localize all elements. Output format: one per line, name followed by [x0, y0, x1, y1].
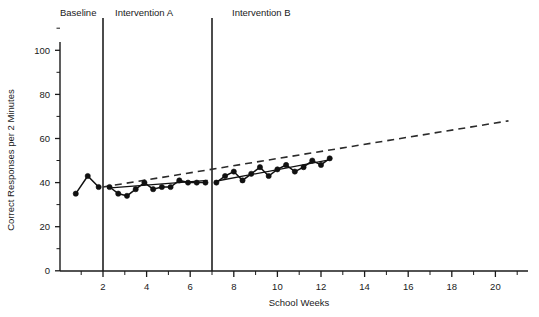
data-point: [310, 158, 315, 163]
y-axis: 100 80 60 40 20 0: [34, 28, 60, 276]
phase-label-baseline: Baseline: [60, 7, 96, 18]
aim-line-goal-aim-line: [103, 121, 508, 187]
data-point: [275, 167, 280, 172]
x-tick-label-20: 20: [490, 281, 501, 292]
data-point: [301, 165, 306, 170]
data-point: [151, 187, 156, 192]
x-tick-label-6: 6: [188, 281, 193, 292]
phase-lines-group: [103, 18, 212, 271]
x-tick-label-8: 8: [231, 281, 236, 292]
data-point: [116, 191, 121, 196]
x-tick-label-14: 14: [359, 281, 370, 292]
data-point: [124, 193, 129, 198]
data-point: [222, 173, 227, 178]
x-axis: 2 4 6 8 10 12 14 16 18 20: [60, 271, 528, 292]
chart-container: Baseline Intervention A Intervention B 1…: [0, 0, 539, 317]
data-point: [318, 162, 323, 167]
series-path: [110, 180, 206, 195]
data-point: [203, 180, 208, 185]
x-tick-label-18: 18: [447, 281, 458, 292]
series-baseline: [73, 173, 101, 196]
data-point: [194, 180, 199, 185]
data-point: [266, 173, 271, 178]
data-point: [292, 169, 297, 174]
phase-labels-group: Baseline Intervention A Intervention B: [60, 7, 291, 18]
x-tick-label-4: 4: [144, 281, 149, 292]
x-tick-label-2: 2: [100, 281, 105, 292]
data-point: [107, 184, 112, 189]
x-axis-title: School Weeks: [269, 297, 330, 308]
data-point: [177, 178, 182, 183]
y-tick-label-100: 100: [34, 45, 50, 56]
data-point: [284, 162, 289, 167]
data-point: [214, 180, 219, 185]
y-tick-label-40: 40: [39, 177, 50, 188]
data-point: [240, 178, 245, 183]
y-axis-title: Correct Responses per 2 Minutes: [5, 89, 16, 231]
data-point: [159, 184, 164, 189]
data-point: [249, 171, 254, 176]
y-tick-label-60: 60: [39, 133, 50, 144]
y-tick-label-80: 80: [39, 89, 50, 100]
y-tick-label-0: 0: [45, 265, 50, 276]
phase-label-intervention-b: Intervention B: [232, 7, 291, 18]
data-point: [142, 180, 147, 185]
data-point: [168, 184, 173, 189]
data-point: [85, 173, 90, 178]
plot-data-layer: [73, 121, 508, 199]
data-point: [231, 169, 236, 174]
x-tick-label-12: 12: [316, 281, 327, 292]
data-point: [257, 165, 262, 170]
data-point: [133, 187, 138, 192]
x-tick-label-10: 10: [272, 281, 283, 292]
data-point: [73, 191, 78, 196]
y-tick-label-20: 20: [39, 221, 50, 232]
data-point: [327, 156, 332, 161]
data-point: [185, 180, 190, 185]
data-point: [96, 184, 101, 189]
trend-line-intervention-a-trend: [107, 180, 207, 188]
phase-label-intervention-a: Intervention A: [115, 7, 174, 18]
single-case-design-chart: Baseline Intervention A Intervention B 1…: [0, 0, 539, 317]
x-tick-label-16: 16: [403, 281, 414, 292]
